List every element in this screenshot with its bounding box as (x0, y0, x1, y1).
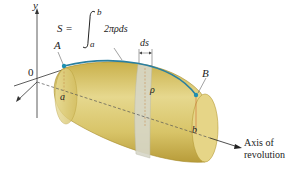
right-end-b-label: b (192, 125, 197, 135)
coordinate-axes (14, 8, 62, 118)
band-strip (135, 64, 152, 158)
ds-arrow-left-icon (139, 52, 142, 55)
leader-a (58, 52, 63, 64)
formula-integrand: 2πρds (104, 24, 128, 34)
formula-lower-limit: a (90, 40, 95, 49)
axis-caption-line2: revolution (244, 149, 285, 161)
solid-of-revolution (54, 62, 210, 163)
axis-arrow-icon (234, 144, 242, 149)
point-a-marker (62, 64, 66, 68)
radius-rho-label: ρ (150, 85, 155, 95)
point-a-label: A (54, 40, 61, 51)
origin-label: 0 (28, 67, 34, 78)
y-axis-label: y (33, 0, 38, 11)
point-b-marker (194, 93, 198, 97)
ds-arrow-right-icon (149, 52, 152, 55)
leader-b (198, 78, 206, 93)
ds-label: ds (140, 38, 149, 48)
axis-caption-line1: Axis of (244, 137, 274, 149)
formula-lhs: S = (57, 23, 73, 34)
point-b-label: B (202, 68, 209, 79)
left-end-a-label: a (60, 92, 65, 102)
formula-upper-limit: b (97, 8, 102, 17)
leader-formula (114, 48, 122, 60)
left-end-cap (55, 68, 77, 124)
